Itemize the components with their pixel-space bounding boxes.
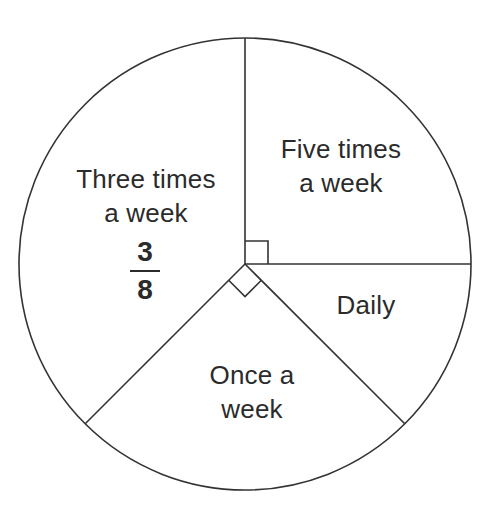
slice-label-once-line1: Once a <box>182 358 322 392</box>
slice-label-once-line2: week <box>182 392 322 426</box>
slice-label-five-times-a-week: Five times a week <box>258 132 424 201</box>
pie-chart-figure: Five times a week Three times a week 3 8… <box>0 0 490 516</box>
fraction-numerator: 3 <box>122 238 168 268</box>
slice-label-daily-line1: Daily <box>316 288 416 322</box>
slice-label-five-times-line2: a week <box>258 166 424 200</box>
fraction-bar <box>130 270 160 272</box>
slice-label-once-a-week: Once a week <box>182 358 322 427</box>
slice-label-five-times-line1: Five times <box>258 132 424 166</box>
slice-label-three-times-line1: Three times <box>52 162 240 196</box>
slice-label-three-times-a-week: Three times a week <box>52 162 240 231</box>
pie-chart-svg <box>0 0 490 516</box>
slice-fraction-three-eighths: 3 8 <box>122 238 168 304</box>
fraction-denominator: 8 <box>122 275 168 304</box>
slice-label-three-times-line2: a week <box>52 196 240 230</box>
slice-label-daily: Daily <box>316 288 416 322</box>
